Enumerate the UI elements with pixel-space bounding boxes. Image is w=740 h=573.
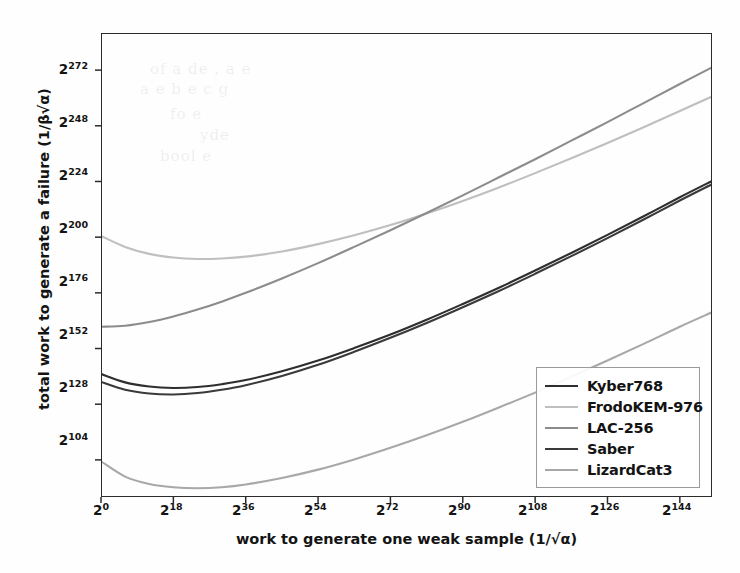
x-tick-label: 20 xyxy=(93,502,109,518)
legend-item-frodokem-976[interactable]: FrodoKEM-976 xyxy=(545,396,691,417)
x-axis-label: work to generate one weak sample (1/√α) xyxy=(101,531,712,547)
legend-swatch-lac-256 xyxy=(545,427,578,429)
x-tick-label: 218 xyxy=(160,502,183,518)
x-tick-label: 272 xyxy=(376,502,399,518)
y-axis-label: total work to generate a failure (1/β√α) xyxy=(36,84,52,414)
legend-item-kyber768[interactable]: Kyber768 xyxy=(545,375,691,396)
legend-label: Saber xyxy=(587,441,634,457)
x-tick-label: 290 xyxy=(448,502,471,518)
x-tick-label: 2126 xyxy=(590,502,619,518)
legend-label: LAC-256 xyxy=(587,420,653,436)
chart-legend: Kyber768 FrodoKEM-976 LAC-256 Saber Liza… xyxy=(536,367,700,488)
legend-swatch-lizardcat3 xyxy=(545,469,578,471)
legend-label: FrodoKEM-976 xyxy=(587,399,703,415)
x-tick-label: 2108 xyxy=(518,502,547,518)
figure-container: of a de , a e a e b e c g fo e yde bool … xyxy=(0,0,740,573)
x-tick-label: 254 xyxy=(304,502,327,518)
x-tick-label: 236 xyxy=(232,502,255,518)
legend-label: LizardCat3 xyxy=(587,462,672,478)
legend-swatch-saber xyxy=(545,448,578,450)
legend-swatch-frodokem-976 xyxy=(545,406,578,408)
y-tick-label: 2272 xyxy=(0,61,88,77)
legend-item-saber[interactable]: Saber xyxy=(545,438,691,459)
legend-label: Kyber768 xyxy=(587,378,663,394)
y-tick-label: 2104 xyxy=(0,432,88,448)
x-tick-label: 2144 xyxy=(662,502,691,518)
legend-item-lac-256[interactable]: LAC-256 xyxy=(545,417,691,438)
legend-item-lizardcat3[interactable]: LizardCat3 xyxy=(545,459,691,480)
legend-swatch-kyber768 xyxy=(545,385,578,387)
